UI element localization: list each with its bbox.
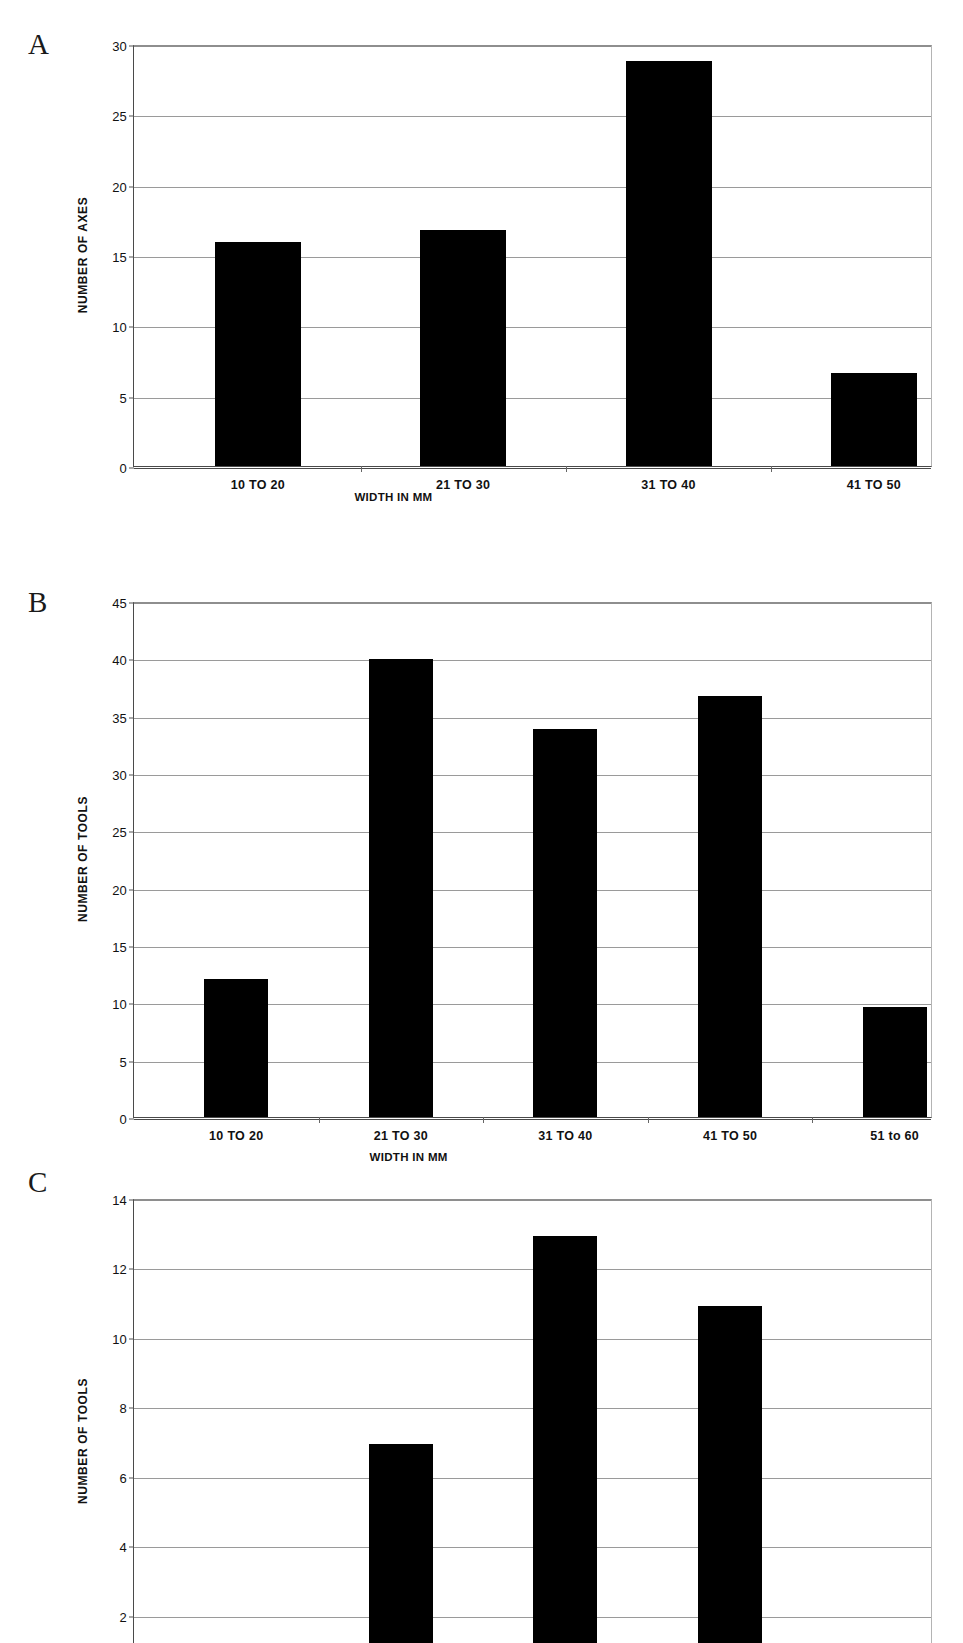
bar xyxy=(204,979,268,1117)
y-axis-tick-label: 4 xyxy=(120,1540,134,1555)
chart-b-gridline xyxy=(134,660,931,661)
chart-c-plot-area: 02468101214 xyxy=(133,1199,932,1643)
chart-b-gridline xyxy=(134,603,931,604)
x-axis-tick-mark xyxy=(319,1117,320,1123)
y-axis-tick-label: 20 xyxy=(112,179,134,194)
y-axis-tick-label: 2 xyxy=(120,1609,134,1624)
bar xyxy=(369,1444,433,1643)
x-axis-tick-label: 21 TO 30 xyxy=(436,478,490,492)
y-axis-tick-label: 15 xyxy=(112,940,134,955)
panel-letter-c: C xyxy=(28,1168,47,1197)
x-axis-tick-mark xyxy=(648,1117,649,1123)
chart-a-y-axis-title: NUMBER OF AXES xyxy=(76,197,90,314)
chart-c: 02468101214 NUMBER OF TOOLS xyxy=(133,1199,932,1643)
chart-a-plot-area: 05101520253010 TO 2021 TO 3031 TO 4041 T… xyxy=(133,45,932,467)
bar xyxy=(831,373,917,466)
y-axis-tick-label: 0 xyxy=(120,461,134,476)
y-axis-tick-label: 35 xyxy=(112,710,134,725)
x-axis-tick-label: 41 TO 50 xyxy=(847,478,901,492)
bar xyxy=(420,230,506,466)
y-axis-tick-label: 15 xyxy=(112,250,134,265)
x-axis-tick-label: 10 TO 20 xyxy=(231,478,285,492)
chart-c-gridline xyxy=(134,1200,931,1201)
x-axis-tick-label: 31 TO 40 xyxy=(641,478,695,492)
y-axis-tick-label: 10 xyxy=(112,1331,134,1346)
panel-letter-a: A xyxy=(28,30,49,59)
y-axis-tick-label: 30 xyxy=(112,768,134,783)
y-axis-tick-label: 10 xyxy=(112,997,134,1012)
chart-a: 05101520253010 TO 2021 TO 3031 TO 4041 T… xyxy=(133,45,932,467)
chart-a-gridline xyxy=(134,116,931,117)
y-axis-tick-label: 6 xyxy=(120,1470,134,1485)
y-axis-tick-label: 20 xyxy=(112,882,134,897)
chart-b-y-axis-title: NUMBER OF TOOLS xyxy=(76,796,90,922)
bar xyxy=(369,659,433,1117)
y-axis-tick-label: 30 xyxy=(112,39,134,54)
chart-a-gridline xyxy=(134,468,931,469)
x-axis-tick-mark xyxy=(771,466,772,472)
x-axis-tick-label: 41 TO 50 xyxy=(703,1129,757,1143)
chart-b-gridline xyxy=(134,718,931,719)
chart-a-x-axis-title: WIDTH IN MM xyxy=(354,491,432,503)
y-axis-tick-label: 10 xyxy=(112,320,134,335)
y-axis-tick-label: 25 xyxy=(112,825,134,840)
x-axis-tick-mark xyxy=(566,466,567,472)
x-axis-tick-mark xyxy=(361,466,362,472)
chart-a-gridline xyxy=(134,187,931,188)
y-axis-tick-label: 5 xyxy=(120,1054,134,1069)
y-axis-tick-label: 14 xyxy=(112,1193,134,1208)
bar xyxy=(533,1236,597,1643)
chart-b: 05101520253035404510 TO 2021 TO 3031 TO … xyxy=(133,602,932,1118)
x-axis-tick-mark xyxy=(483,1117,484,1123)
x-axis-tick-label: 21 TO 30 xyxy=(374,1129,428,1143)
x-axis-tick-label: 31 TO 40 xyxy=(538,1129,592,1143)
y-axis-tick-label: 12 xyxy=(112,1262,134,1277)
bar xyxy=(863,1007,927,1117)
chart-b-plot-area: 05101520253035404510 TO 2021 TO 3031 TO … xyxy=(133,602,932,1118)
x-axis-tick-label: 51 to 60 xyxy=(870,1129,919,1143)
bar xyxy=(698,1306,762,1643)
bar xyxy=(215,242,301,466)
bar xyxy=(533,729,597,1117)
x-axis-tick-mark xyxy=(812,1117,813,1123)
y-axis-tick-label: 8 xyxy=(120,1401,134,1416)
bar xyxy=(626,61,712,466)
chart-a-gridline xyxy=(134,46,931,47)
bar xyxy=(698,696,762,1117)
y-axis-tick-label: 0 xyxy=(120,1112,134,1127)
y-axis-tick-label: 5 xyxy=(120,390,134,405)
panel-letter-b: B xyxy=(28,588,47,617)
y-axis-tick-label: 45 xyxy=(112,596,134,611)
chart-c-y-axis-title: NUMBER OF TOOLS xyxy=(76,1378,90,1504)
y-axis-tick-label: 25 xyxy=(112,109,134,124)
x-axis-tick-label: 10 TO 20 xyxy=(209,1129,263,1143)
y-axis-tick-label: 40 xyxy=(112,653,134,668)
chart-b-x-axis-title: WIDTH IN MM xyxy=(370,1151,448,1163)
